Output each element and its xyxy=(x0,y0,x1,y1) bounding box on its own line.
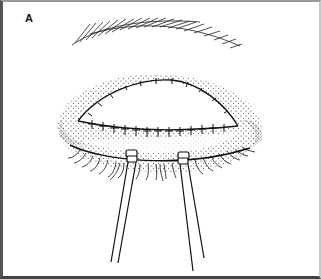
eyelid-illustration xyxy=(0,0,321,279)
eyebrow xyxy=(72,18,242,48)
